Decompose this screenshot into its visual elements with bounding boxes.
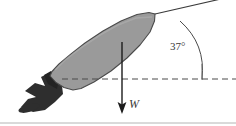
weight-label: W	[129, 97, 140, 111]
angle-label: 37°	[170, 40, 185, 52]
diagram-canvas: 37° W	[0, 0, 236, 126]
rocket-diagram-figure: 37° W	[0, 0, 236, 126]
